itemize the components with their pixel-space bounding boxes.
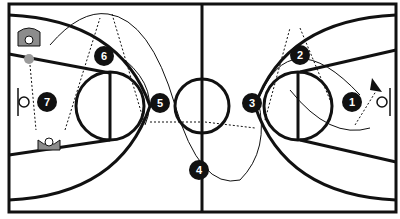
player-2-marker: 2: [290, 45, 310, 65]
player-4-marker: 4: [189, 160, 209, 180]
player-1-marker: 1: [342, 92, 362, 112]
court-diagram: 1 2 3 4 5 6 7: [0, 0, 400, 219]
player-7-marker: 7: [37, 92, 57, 112]
player-6-marker: 6: [94, 46, 114, 66]
court-lines: [0, 0, 400, 219]
player-3-marker: 3: [242, 93, 262, 113]
defender-icons: [18, 28, 60, 150]
ball-icon: [24, 54, 34, 64]
player-5-marker: 5: [150, 93, 170, 113]
